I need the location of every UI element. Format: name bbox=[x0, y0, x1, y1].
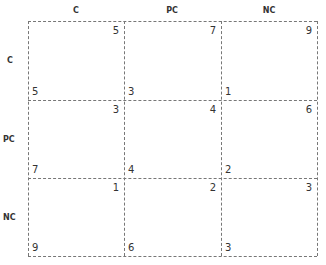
cell-c-nc: 9 1 bbox=[221, 21, 317, 100]
column-player-payoff: 1 bbox=[113, 182, 119, 193]
grid-line-h3 bbox=[28, 256, 317, 257]
row-player-payoff: 9 bbox=[32, 242, 38, 253]
cell-pc-c: 3 7 bbox=[28, 100, 124, 178]
row-header-pc: PC bbox=[3, 135, 15, 144]
row-player-payoff: 7 bbox=[32, 164, 38, 175]
column-header-nc: NC bbox=[263, 6, 276, 15]
column-player-payoff: 4 bbox=[210, 104, 216, 115]
row-player-payoff: 3 bbox=[225, 242, 231, 253]
grid-line-v3 bbox=[317, 21, 318, 256]
row-player-payoff: 3 bbox=[128, 86, 134, 97]
column-player-payoff: 3 bbox=[113, 104, 119, 115]
cell-pc-pc: 4 4 bbox=[124, 100, 221, 178]
row-header-c: C bbox=[7, 56, 13, 65]
column-player-payoff: 3 bbox=[306, 182, 312, 193]
row-player-payoff: 4 bbox=[128, 164, 134, 175]
column-player-payoff: 2 bbox=[210, 182, 216, 193]
column-header-pc: PC bbox=[166, 6, 178, 15]
column-player-payoff: 9 bbox=[306, 25, 312, 36]
row-header-nc: NC bbox=[3, 213, 16, 222]
row-player-payoff: 6 bbox=[128, 242, 134, 253]
row-player-payoff: 5 bbox=[32, 86, 38, 97]
column-player-payoff: 6 bbox=[306, 104, 312, 115]
cell-nc-nc: 3 3 bbox=[221, 178, 317, 256]
cell-pc-nc: 6 2 bbox=[221, 100, 317, 178]
cell-c-pc: 7 3 bbox=[124, 21, 221, 100]
column-player-payoff: 5 bbox=[113, 25, 119, 36]
row-player-payoff: 1 bbox=[225, 86, 231, 97]
cell-nc-c: 1 9 bbox=[28, 178, 124, 256]
column-player-payoff: 7 bbox=[210, 25, 216, 36]
row-player-payoff: 2 bbox=[225, 164, 231, 175]
cell-nc-pc: 2 6 bbox=[124, 178, 221, 256]
cell-c-c: 5 5 bbox=[28, 21, 124, 100]
payoff-matrix-grid: 5 5 7 3 9 1 3 7 4 4 6 2 1 9 2 6 3 3 bbox=[28, 21, 317, 256]
column-header-c: C bbox=[73, 6, 79, 15]
